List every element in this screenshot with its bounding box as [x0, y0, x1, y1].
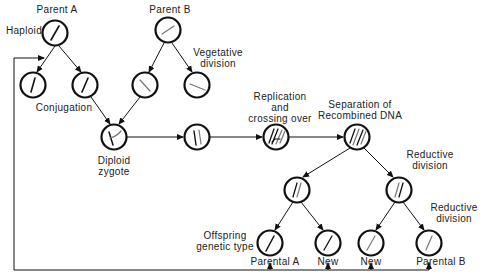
cell-b-daughter-2	[185, 73, 210, 98]
label-conjugation: Conjugation	[34, 102, 94, 114]
label-vegetative-2: division	[188, 58, 248, 70]
cell-reductive-2	[387, 178, 412, 203]
label-offspring-new-2: New	[356, 256, 386, 268]
cell-reductive-1	[285, 178, 310, 203]
label-offspring-parental-a: Parental A	[245, 256, 305, 268]
label-offspring-new-1: New	[313, 256, 343, 268]
cell-separation	[345, 125, 370, 150]
cell-replication-crossing	[264, 125, 289, 150]
label-reductive-b-2: division	[424, 213, 483, 225]
label-offspring-2: genetic type	[190, 241, 260, 253]
cell-paired-chromosomes	[185, 125, 210, 150]
label-parent-b: Parent B	[145, 4, 195, 16]
label-reductive-a-2: division	[400, 160, 460, 172]
label-parent-a: Parent A	[32, 4, 82, 16]
label-separation-2: Recombined DNA	[310, 110, 410, 122]
label-offspring-parental-b: Parental B	[410, 256, 472, 268]
label-haploid: Haploid	[2, 25, 42, 37]
label-diploid-2: zygote	[94, 166, 134, 178]
